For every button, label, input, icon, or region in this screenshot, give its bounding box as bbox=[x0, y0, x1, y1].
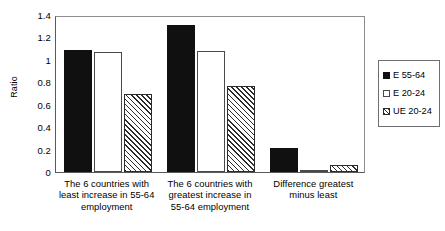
bars-container bbox=[56, 17, 364, 172]
y-tick-label: 0.6 bbox=[5, 101, 51, 111]
y-tick-label: 1 bbox=[5, 56, 51, 66]
bar bbox=[167, 25, 195, 172]
legend-item-label: UE 20-24 bbox=[393, 106, 432, 116]
legend-swatch-icon bbox=[383, 72, 390, 79]
legend-item[interactable]: UE 20-24 bbox=[383, 104, 436, 118]
legend-item[interactable]: E 55-64 bbox=[383, 68, 436, 82]
y-tick-label: 1.4 bbox=[5, 11, 51, 21]
x-category-label-line: Difference greatest bbox=[253, 178, 374, 189]
bar bbox=[270, 148, 298, 172]
y-tick-label: 1.2 bbox=[5, 33, 51, 43]
x-category-label: Difference greatestminus least bbox=[253, 178, 374, 201]
y-tick-label: 0 bbox=[5, 168, 51, 178]
legend-item-label: E 20-24 bbox=[393, 88, 425, 98]
bar bbox=[227, 86, 255, 172]
legend-item[interactable]: E 20-24 bbox=[383, 86, 436, 100]
y-axis-tick-labels: 00.20.40.60.811.21.4 bbox=[3, 0, 51, 231]
bar-chart: Ratio 00.20.40.60.811.21.4 The 6 countri… bbox=[0, 0, 445, 231]
bar bbox=[300, 170, 328, 172]
plot-area bbox=[55, 16, 365, 173]
bar bbox=[124, 94, 152, 173]
y-tick-label: 0.4 bbox=[5, 123, 51, 133]
x-category-label-line: 55-64 employment bbox=[149, 201, 270, 212]
y-tick-label: 0.2 bbox=[5, 146, 51, 156]
bar bbox=[197, 51, 225, 172]
legend-item-label: E 55-64 bbox=[393, 70, 425, 80]
x-category-label-line: minus least bbox=[253, 189, 374, 200]
bar bbox=[94, 52, 122, 172]
y-tick-label: 0.8 bbox=[5, 78, 51, 88]
bar bbox=[330, 165, 358, 172]
legend: E 55-64E 20-24UE 20-24 bbox=[378, 60, 440, 127]
legend-swatch-icon bbox=[383, 90, 390, 97]
legend-swatch-icon bbox=[383, 108, 390, 115]
bar bbox=[64, 50, 92, 172]
